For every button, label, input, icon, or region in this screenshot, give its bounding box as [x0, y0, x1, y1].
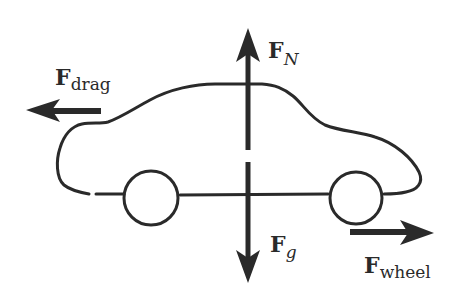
front-wheel	[330, 172, 382, 224]
gravity-force-arrow	[236, 162, 260, 283]
normal-force-label: FN	[268, 37, 300, 69]
car-body	[57, 84, 420, 195]
drag-force-label: Fdrag	[55, 64, 111, 94]
gravity-force-label: Fg	[270, 231, 297, 262]
drag-force-arrow	[26, 99, 101, 122]
rear-wheel	[124, 171, 178, 225]
free-body-diagram: Fdrag FN Fg Fwheel	[0, 0, 457, 305]
wheel-force-label: Fwheel	[364, 252, 431, 282]
normal-force-arrow	[236, 28, 260, 150]
